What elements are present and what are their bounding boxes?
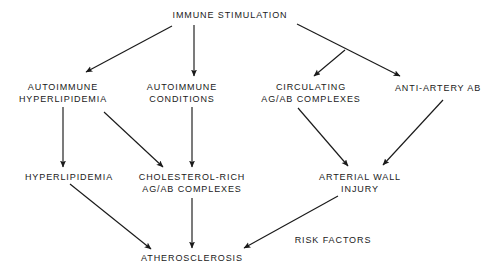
node-autoimmune-hyperlipidemia: AUTOIMMUNEHYPERLIPIDEMIA (19, 81, 107, 105)
edge-arrow-circulating-complexes-to-arterial-wall (298, 108, 348, 166)
node-label-line: HYPERLIPIDEMIA (19, 93, 107, 105)
node-cholesterol-rich-ag-ab-complexes: CHOLESTEROL-RICHAG/AB COMPLEXES (139, 171, 245, 195)
node-label-line: IMMUNE STIMULATION (172, 9, 287, 21)
edges-layer (0, 0, 503, 276)
node-label-line: HYPERLIPIDEMIA (25, 171, 113, 183)
flowchart-diagram: IMMUNE STIMULATIONAUTOIMMUNEHYPERLIPIDEM… (0, 0, 503, 276)
edge-arrow-autoimmune-hyperlipidemia-to-cholesterol-rich (104, 112, 163, 167)
node-label-line: ARTERIAL WALL (319, 171, 401, 183)
node-atherosclerosis: ATHEROSCLEROSIS (141, 252, 243, 264)
node-immune-stimulation: IMMUNE STIMULATION (172, 9, 287, 21)
node-label-line: CONDITIONS (147, 93, 217, 105)
node-label-line: AG/AB COMPLEXES (261, 93, 361, 105)
node-arterial-wall-injury: ARTERIAL WALLINJURY (319, 171, 401, 195)
node-circulating-ag-ab-complexes: CIRCULATINGAG/AB COMPLEXES (261, 81, 361, 105)
node-label-line: CIRCULATING (261, 81, 361, 93)
node-label-line: ATHEROSCLEROSIS (141, 252, 243, 264)
node-autoimmune-conditions: AUTOIMMUNECONDITIONS (147, 81, 217, 105)
edges-group (63, 24, 443, 249)
node-label-line: INJURY (319, 183, 401, 195)
edge-label-risk-factors: RISK FACTORS (295, 234, 372, 246)
node-hyperlipidemia: HYPERLIPIDEMIA (25, 171, 113, 183)
node-label-line: ANTI-ARTERY AB (395, 82, 481, 94)
edge-arrow-immune-to-circulating-complexes (314, 50, 345, 76)
edge-arrow-anti-artery-ab-to-arterial-wall (383, 100, 443, 165)
node-label-line: CHOLESTEROL-RICH (139, 171, 245, 183)
node-label-line: AUTOIMMUNE (147, 81, 217, 93)
node-anti-artery-ab: ANTI-ARTERY AB (395, 82, 481, 94)
edge-arrow-immune-to-autoimmune-hyperlipidemia (86, 26, 172, 72)
node-label-line: AUTOIMMUNE (19, 81, 107, 93)
edge-arrow-immune-to-anti-artery-ab (297, 24, 400, 76)
node-label-line: AG/AB COMPLEXES (139, 183, 245, 195)
